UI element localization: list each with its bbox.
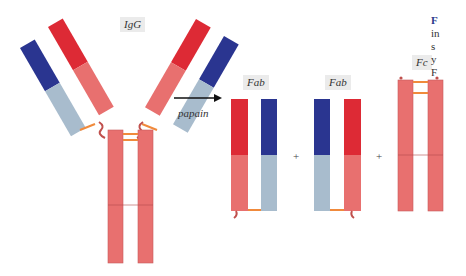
papain-label: papain <box>178 107 209 119</box>
disulfide-bond <box>142 124 157 130</box>
antibody-diagram <box>0 0 466 276</box>
caption-line: in <box>431 27 466 40</box>
caption-line: F <box>431 66 466 79</box>
igg-fc-heavy-right <box>138 130 153 263</box>
caption-lead: F <box>431 14 466 27</box>
igg-label: IgG <box>120 17 145 32</box>
fc-fragment <box>398 76 443 211</box>
igg-fc-heavy-left <box>108 130 123 263</box>
fc-label: Fc <box>412 55 432 70</box>
fab-label-1: Fab <box>243 75 269 90</box>
caption-line: y <box>431 53 466 66</box>
fab-label-2: Fab <box>325 75 351 90</box>
figure-caption-partial: F in s y F <box>431 14 466 79</box>
fab-fragment-2 <box>314 99 361 218</box>
caption-line: s <box>431 40 466 53</box>
hinge-region <box>99 122 105 138</box>
plus-sign: + <box>293 150 299 162</box>
plus-sign: + <box>376 150 382 162</box>
fab-fragment-1 <box>231 99 277 218</box>
